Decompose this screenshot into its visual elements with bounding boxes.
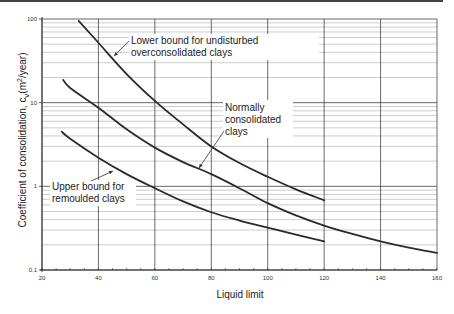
annotation-label: clays: [225, 126, 248, 137]
annotation-label: remoulded clays: [52, 193, 125, 204]
x-tick-label: 160: [432, 275, 443, 281]
arrowhead-icon: [199, 164, 203, 168]
y-axis-title: Coefficient of consolidation, cv(m2/year…: [16, 52, 31, 227]
x-tick-label: 20: [39, 275, 46, 281]
y-tick-label: 100: [27, 16, 38, 22]
x-tick-label: 80: [208, 275, 215, 281]
x-tick-label: 120: [319, 275, 330, 281]
x-tick-label: 40: [95, 275, 102, 281]
x-tick-label: 60: [152, 275, 159, 281]
annotation-label: overconsolidated clays: [131, 47, 232, 58]
x-tick-label: 100: [263, 275, 274, 281]
annotation-label: Normally: [225, 102, 264, 113]
y-tick-label: 1: [34, 183, 38, 189]
x-axis-title: Liquid limit: [216, 289, 263, 300]
y-tick-label: 0.1: [29, 267, 38, 273]
annotation-label: Lower bound for undisturbed: [131, 35, 258, 46]
annotation-label: Upper bound for: [52, 181, 125, 192]
curve-annotations: Lower bound for undisturbedoverconsolida…: [50, 34, 319, 206]
x-tick-label: 140: [376, 275, 387, 281]
annotation-label: consolidated: [225, 114, 281, 125]
y-tick-label: 10: [30, 100, 37, 106]
consolidation-chart: 204060801001201401600.1110100 Lower boun…: [0, 0, 454, 314]
